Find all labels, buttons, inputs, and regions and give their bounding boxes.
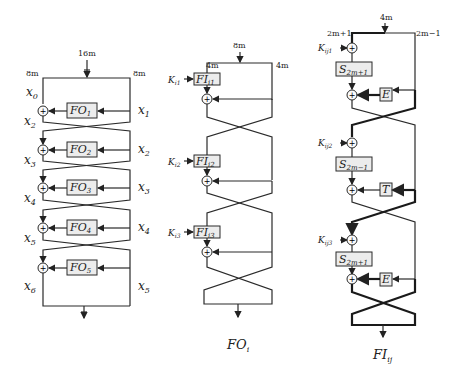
svg-text:+: + [40,184,47,193]
fo-x0-label: x0 [26,85,38,101]
diagram-canvas: 16m 8m 8m x0 + FO1 x1 x2 + FO2 x2 x3 [0,0,465,377]
fo-network: 16m 8m 8m x0 + FO1 x1 x2 + FO2 x2 x3 [24,49,150,318]
svg-text:x6: x6 [24,279,36,295]
svg-text:E: E [381,273,390,286]
svg-text:+: + [349,44,356,53]
fo-i-left-width: 4m [206,61,219,70]
svg-text:Kij1: Kij1 [317,43,332,55]
svg-text:x5: x5 [138,279,150,295]
svg-text:x5: x5 [24,231,36,247]
fo-i-network: 8m 4m 4m FIi1 Ki1 + FIi2 Ki2 + FIi3 Ki3 … [167,41,289,354]
svg-text:x3: x3 [138,180,150,196]
fo-input-width: 16m [78,49,96,58]
svg-text:+: + [40,224,47,233]
svg-text:+: + [204,248,211,257]
svg-text:+: + [204,177,211,186]
svg-text:Kij3: Kij3 [317,235,333,247]
svg-text:+: + [349,186,356,195]
fo-left-width: 8m [26,69,39,78]
svg-text:+: + [40,146,47,155]
svg-text:+: + [349,236,356,245]
fi-ij-network: 4m 2m+1 2m−1 Kij1 + S2m+1 + E Kij2 + S2m… [317,13,440,364]
svg-text:x3: x3 [24,153,36,169]
svg-text:+: + [349,139,356,148]
svg-text:+: + [349,275,356,284]
svg-text:Ki2: Ki2 [167,157,181,168]
svg-text:Ki1: Ki1 [167,75,180,86]
fo-i-input-width: 8m [233,41,246,50]
fo-i-caption: FOi [226,337,250,354]
fo-i-right-width: 4m [276,61,289,70]
svg-text:x1: x1 [138,103,150,119]
fi-ij-input-width: 4m [380,13,393,22]
svg-text:+: + [40,107,47,116]
fi-ij-left-width: 2m+1 [327,29,351,38]
fo-right-width: 8m [133,69,146,78]
svg-text:x2: x2 [24,114,36,130]
svg-text:+: + [349,91,356,100]
fi-ij-caption: FIij [372,347,393,364]
svg-text:x2: x2 [138,142,150,158]
svg-text:Ki3: Ki3 [167,228,181,239]
svg-text:Kij2: Kij2 [317,138,333,150]
svg-text:+: + [40,264,47,273]
fi-ij-right-width: 2m−1 [416,29,440,38]
svg-text:x4: x4 [24,191,36,207]
svg-text:E: E [381,88,390,101]
svg-text:+: + [204,95,211,104]
svg-text:x4: x4 [138,220,150,236]
fo-round-5: + FO5 x6 x5 [24,260,150,306]
